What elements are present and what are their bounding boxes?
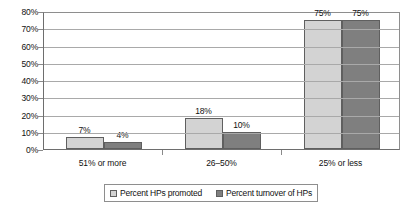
plot-wrapper: 0%10%20%30%40%50%60%70%80% 7%4%18%10%75%… [0,0,414,172]
x-axis-tick-mark [281,150,282,155]
legend-item: Percent turnover of HPs [216,189,312,198]
x-axis-tick-mark [162,150,163,155]
legend-swatch-icon [110,190,117,197]
legend-label: Percent HPs promoted [120,189,202,198]
y-axis-tick-mark [38,116,43,117]
y-axis-tick-mark [38,29,43,30]
gridline [44,29,399,30]
bar[interactable] [342,20,380,149]
y-axis-tick-label: 20% [2,111,38,120]
plot-area: 7%4%18%10%75%75% [43,12,400,150]
y-axis-tick-label: 80% [2,8,38,17]
x-axis-category-label: 25% or less [281,158,400,168]
y-axis-tick-label: 60% [2,42,38,51]
bar[interactable] [304,20,342,149]
gridline [44,116,399,117]
y-axis-tick-mark [38,98,43,99]
y-axis: 0%10%20%30%40%50%60%70%80% [2,12,38,150]
y-axis-tick-label: 0% [2,146,38,155]
chart-legend: Percent HPs promoted Percent turnover of… [104,184,318,202]
gridline [44,98,399,99]
bar[interactable] [104,142,142,149]
x-axis-category-label: 51% or more [43,158,162,168]
legend-swatch-icon [216,190,223,197]
bar-value-label: 10% [217,121,267,130]
grouped-bar-chart: 0%10%20%30%40%50%60%70%80% 7%4%18%10%75%… [0,0,414,214]
y-axis-tick-label: 40% [2,77,38,86]
legend-label: Percent turnover of HPs [226,189,312,198]
gridline [44,64,399,65]
y-axis-tick-label: 70% [2,25,38,34]
y-axis-tick-mark [38,81,43,82]
legend-item: Percent HPs promoted [110,189,202,198]
bar-value-label: 75% [336,9,386,18]
y-axis-tick-label: 30% [2,94,38,103]
y-axis-tick-mark [38,12,43,13]
y-axis-tick-mark [38,133,43,134]
gridline [44,133,399,134]
gridline [44,81,399,82]
y-axis-tick-mark [38,64,43,65]
y-axis-tick-mark [38,47,43,48]
x-axis-category-label: 26–50% [162,158,281,168]
gridline [44,47,399,48]
bar[interactable] [223,132,261,149]
y-axis-tick-label: 10% [2,128,38,137]
y-axis-tick-label: 50% [2,59,38,68]
y-axis-tick-mark [38,150,43,151]
